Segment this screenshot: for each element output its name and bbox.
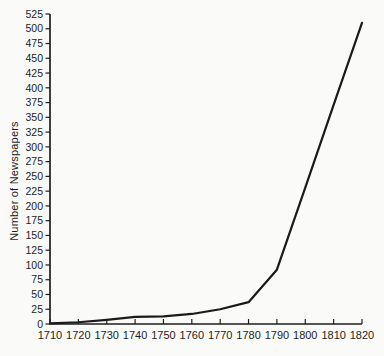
x-tick-label: 1800 [293, 329, 317, 341]
y-tick-label: 375 [25, 96, 43, 108]
y-tick-label: 0 [37, 318, 43, 330]
axis-lines [50, 14, 362, 324]
x-tick-label: 1740 [123, 329, 147, 341]
x-tick-label: 1780 [236, 329, 260, 341]
y-tick-label: 475 [25, 37, 43, 49]
x-tick-label: 1790 [265, 329, 289, 341]
y-tick-label: 25 [31, 303, 43, 315]
x-tick-label: 1760 [180, 329, 204, 341]
x-tick-label: 1710 [38, 329, 62, 341]
newspapers-data-line [50, 23, 362, 324]
y-tick-label: 175 [25, 214, 43, 226]
x-tick-label: 1810 [321, 329, 345, 341]
x-tick-label: 1820 [350, 329, 374, 341]
y-tick-label: 100 [25, 259, 43, 271]
x-tick-label: 1750 [151, 329, 175, 341]
y-tick-label: 75 [31, 273, 43, 285]
y-tick-label: 500 [25, 22, 43, 34]
y-tick-label: 250 [25, 170, 43, 182]
y-tick-label: 150 [25, 229, 43, 241]
y-tick-label: 350 [25, 111, 43, 123]
y-tick-label: 125 [25, 244, 43, 256]
y-tick-label: 325 [25, 126, 43, 138]
y-tick-label: 225 [25, 185, 43, 197]
x-tick-label: 1730 [94, 329, 118, 341]
y-tick-label: 450 [25, 52, 43, 64]
plot-area: 0255075100125150175200225250275300325350… [0, 0, 384, 356]
y-tick-label: 300 [25, 141, 43, 153]
y-tick-label: 275 [25, 155, 43, 167]
y-tick-label: 200 [25, 200, 43, 212]
y-tick-label: 525 [25, 8, 43, 20]
x-tick-label: 1770 [208, 329, 232, 341]
newspaper-growth-line-chart: Number of Newspapers 0255075100125150175… [0, 0, 384, 356]
x-tick-label: 1720 [66, 329, 90, 341]
y-tick-label: 425 [25, 67, 43, 79]
y-tick-label: 400 [25, 82, 43, 94]
y-tick-label: 50 [31, 288, 43, 300]
